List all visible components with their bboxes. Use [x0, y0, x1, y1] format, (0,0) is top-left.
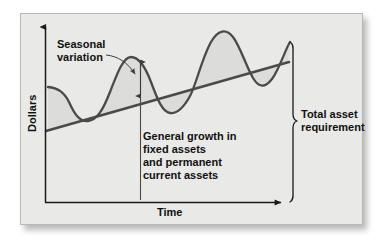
general-growth-annotation: General growth in fixed assets and perma… — [143, 130, 237, 182]
y-axis-label: Dollars — [26, 95, 39, 132]
total-asset-requirement-annotation: Total asset requirement — [301, 108, 365, 134]
seasonal-variation-annotation: Seasonal variation — [57, 38, 105, 64]
x-axis-label: Time — [157, 206, 182, 219]
figure-root: Dollars Time Seasonal variation General … — [0, 0, 389, 252]
